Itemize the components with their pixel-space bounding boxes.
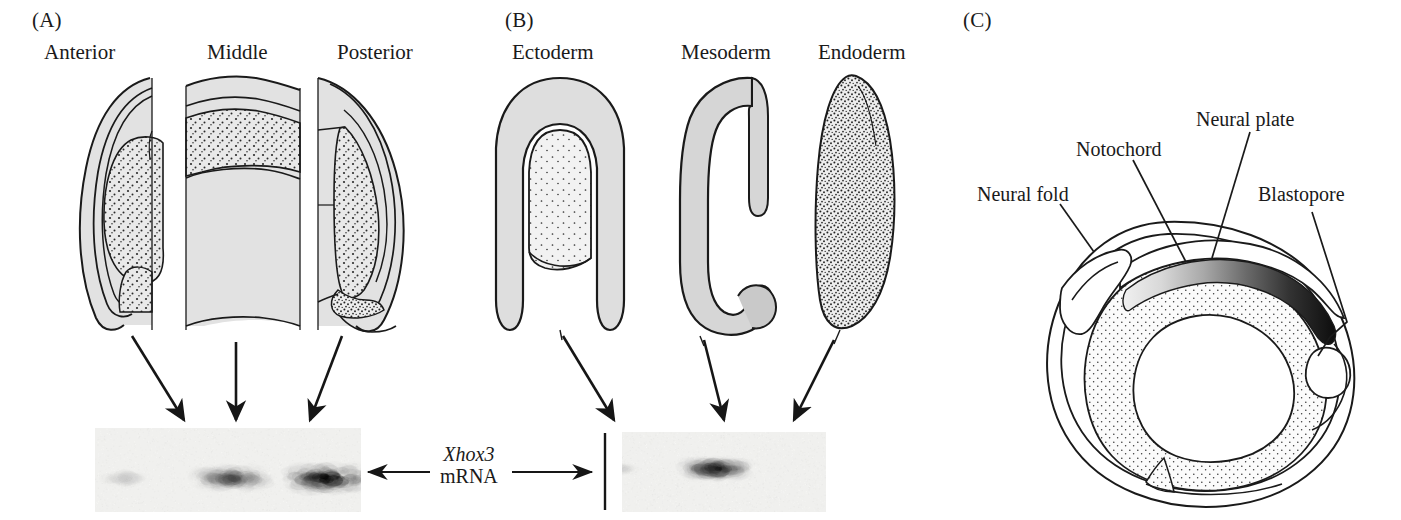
arrow-mesoderm-to-blot: [704, 340, 724, 420]
arrow-endoderm-to-blot: [794, 340, 834, 420]
arrow-anterior-to-blot: [132, 336, 184, 420]
shape-mesoderm: [680, 78, 776, 346]
germ-layer-blot: [622, 432, 826, 512]
arrow-posterior-to-blot: [310, 336, 342, 420]
leader-neural-fold: [1060, 204, 1094, 252]
figure-xhox3-expression: (A) (B) (C) Anterior Middle Posterior Ec…: [0, 0, 1401, 520]
embryo-neurula-sagittal: [1047, 132, 1354, 507]
shape-ectoderm: [496, 78, 624, 340]
section-anterior: [80, 78, 163, 330]
section-middle: [186, 76, 300, 330]
shape-endoderm: [816, 75, 895, 344]
regional-blot: [95, 428, 361, 512]
arrow-ectoderm-to-blot: [563, 336, 614, 420]
section-posterior: [318, 78, 404, 332]
